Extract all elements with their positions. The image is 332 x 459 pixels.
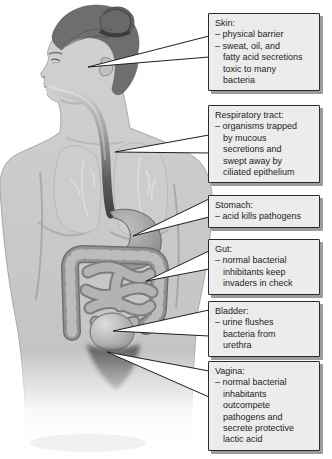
callout-line: secrete protective bbox=[215, 423, 316, 434]
callout-skin: Skin: – physical barrier – sweat, oil, a… bbox=[208, 13, 320, 91]
callout-line: – physical barrier bbox=[215, 29, 316, 40]
thigh-smudge bbox=[30, 434, 146, 452]
diagram-canvas: Skin: – physical barrier – sweat, oil, a… bbox=[0, 0, 332, 459]
callout-line: – urine flushes bbox=[215, 317, 316, 328]
callout-stomach: Stomach: – acid kills pathogens bbox=[208, 195, 320, 228]
callout-line: bacteria from bbox=[215, 329, 316, 340]
callout-line: outcompete bbox=[215, 400, 316, 411]
callout-line: secretions and bbox=[215, 144, 316, 155]
callout-line: urethra bbox=[215, 340, 316, 351]
callout-line: pathogens and bbox=[215, 412, 316, 423]
callout-line: ciliated epithelium bbox=[215, 167, 316, 178]
callout-line: – acid kills pathogens bbox=[215, 211, 316, 222]
callout-line: bacteria bbox=[215, 75, 316, 86]
callout-bladder: Bladder: – urine flushes bacteria from u… bbox=[208, 301, 320, 357]
nostril bbox=[43, 76, 45, 78]
callout-title: Gut: bbox=[215, 244, 316, 255]
callout-line: swept away by bbox=[215, 156, 316, 167]
ear bbox=[99, 58, 113, 76]
callout-line: – sweat, oil, and bbox=[215, 41, 316, 52]
callout-title: Skin: bbox=[215, 18, 316, 29]
callout-line: by mucous bbox=[215, 133, 316, 144]
callout-title: Bladder: bbox=[215, 306, 316, 317]
callout-vagina: Vagina: – normal bacterial inhabitants o… bbox=[208, 361, 320, 451]
callout-line: – organisms trapped bbox=[215, 121, 316, 132]
callout-respiratory-tract: Respiratory tract: – organisms trapped b… bbox=[208, 105, 320, 183]
callout-line: inhabitants bbox=[215, 389, 316, 400]
callout-title: Stomach: bbox=[215, 200, 316, 211]
callout-line: – normal bacterial bbox=[215, 377, 316, 388]
callout-line: toxic to many bbox=[215, 64, 316, 75]
callout-gut: Gut: – normal bacterial inhibitants keep… bbox=[208, 239, 320, 295]
callout-title: Respiratory tract: bbox=[215, 110, 316, 121]
callout-title: Vagina: bbox=[215, 366, 316, 377]
callout-line: fatty acid secretions bbox=[215, 52, 316, 63]
callout-line: lactic acid bbox=[215, 434, 316, 445]
callout-line: invaders in check bbox=[215, 278, 316, 289]
callout-line: – normal bacterial bbox=[215, 255, 316, 266]
callout-line: inhibitants keep bbox=[215, 267, 316, 278]
